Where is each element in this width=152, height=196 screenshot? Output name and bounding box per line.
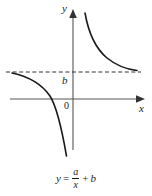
fraction-a-over-x: ax — [72, 167, 79, 190]
fraction-numerator: a — [72, 167, 79, 178]
equation-caption: y=ax+b — [0, 168, 152, 191]
plus-sign: + — [82, 172, 88, 184]
asymptote-value-label-b: b — [62, 75, 68, 86]
equals-sign: = — [63, 172, 69, 184]
y-axis — [69, 9, 77, 150]
fraction-denominator: x — [72, 180, 79, 191]
y-axis-label: y — [62, 3, 67, 14]
origin-label: 0 — [64, 101, 69, 111]
x-axis-label: x — [139, 103, 144, 114]
equation-lhs: y — [56, 172, 61, 184]
equation-expression: y=ax+b — [56, 168, 96, 191]
curve-branch-upper-right — [85, 13, 137, 71]
x-axis — [10, 95, 145, 103]
hyperbola-figure: y x b 0 y=ax+b — [0, 0, 152, 196]
equation-constant: b — [90, 172, 96, 184]
curve-branch-lower-left — [12, 73, 67, 156]
